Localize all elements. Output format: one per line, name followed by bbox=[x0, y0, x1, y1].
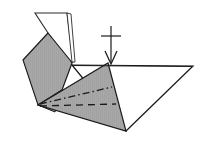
folding-diagram-svg bbox=[0, 0, 200, 154]
figure-root: Paper folding step diagram Origami-style… bbox=[0, 0, 200, 154]
push-down-arrow bbox=[101, 26, 121, 64]
